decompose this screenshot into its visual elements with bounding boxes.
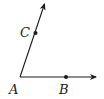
ray-ac — [20, 4, 45, 77]
label-b: B — [58, 82, 69, 97]
point-c-dot — [34, 31, 38, 35]
label-c: C — [20, 25, 30, 40]
angle-diagram: A B C — [0, 0, 104, 99]
point-b-dot — [64, 75, 68, 79]
label-a: A — [8, 82, 18, 97]
